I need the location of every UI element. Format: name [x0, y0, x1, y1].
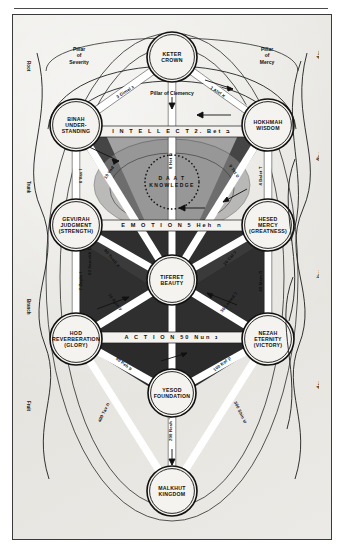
sefira-hesed[interactable]: HESEDMERCY(GREATNESS): [242, 199, 294, 251]
edge-label-fruit: Fruit: [26, 401, 31, 411]
tree-of-life-screenshot: KETERCROWNBINAHUNDER-STANDINGHOKHMAHWISD…: [0, 0, 342, 550]
sefira-label: CROWN: [161, 57, 182, 63]
top-rule: [14, 8, 328, 9]
daat-label: KNOWLEDGE: [149, 182, 195, 188]
sefira-label: TIFERET: [160, 274, 184, 280]
edge-label-yezirah: Yezirah: World of Formation: [315, 221, 331, 279]
path-label-p400: 400 Tav ת: [97, 402, 111, 423]
sefira-yesod[interactable]: YESODFOUNDATION: [148, 369, 196, 417]
path-label-p60: 60 Samekh ס: [87, 247, 92, 275]
bar-label-action: A C T I O N 50 Nun נ: [124, 334, 219, 340]
sefira-keter[interactable]: KETERCROWN: [147, 32, 197, 82]
sefira-label: REVERBERATION: [52, 336, 100, 342]
path-label-p7: 7 Zayin ז: [78, 271, 83, 290]
pillar-label-line: Severity: [69, 59, 89, 65]
sefira-label: HOD: [70, 330, 82, 336]
sefira-label: JUDGMENT: [60, 222, 92, 228]
sefira-label: ETERNITY: [254, 336, 282, 342]
sefira-label: (GLORY): [64, 342, 87, 348]
bar-label-intellect: I N T E L L E C T 2. Bet ב: [112, 128, 232, 134]
path-label-p6: 6 Vav ו: [78, 169, 83, 184]
path-label-p300: 300 Shin ש: [233, 401, 248, 425]
sefira-label: BEAUTY: [161, 280, 184, 286]
daat-label: D A A T: [158, 175, 185, 181]
pillar-label-line: Pillar of Clemency: [150, 90, 194, 96]
sefira-label: NEZAH: [258, 330, 277, 336]
sefira-binah[interactable]: BINAHUNDER-STANDING: [50, 99, 102, 151]
sefira-label: (GREATNESS): [249, 228, 287, 234]
sefira-label: WISDOM: [256, 125, 279, 131]
edge-label-trunk: Trunk: [26, 181, 31, 194]
sefira-label: GEVURAH: [62, 216, 90, 222]
sefira-tiferet[interactable]: TIFERETBEAUTY: [147, 255, 197, 305]
path-label-p4: 4 Dalet ד: [258, 166, 263, 186]
bar-label-emotion: E M O T I O N 5 Heh ה: [121, 222, 223, 228]
sefira-label: HESED: [258, 216, 277, 222]
sefira-label: KETER: [163, 51, 182, 57]
sefira-hokhmah[interactable]: HOKHMAHWISDOM: [242, 99, 294, 151]
pillar-label-line: Pillar: [73, 46, 85, 52]
pillar-label-line: of: [265, 52, 270, 58]
pillar-label-severity: PillarofSeverity: [69, 46, 89, 65]
sefira-label: (VICTORY): [254, 342, 282, 348]
edge-label-branch: Branch: [26, 299, 31, 315]
sefira-label: KINGDOM: [159, 491, 186, 497]
sefira-malkhut[interactable]: MALKHUTKINGDOM: [147, 466, 197, 516]
sefira-label: HOKHMAH: [254, 119, 283, 125]
sefira-label: YESOD: [162, 387, 181, 393]
sefira-label: (STRENGTH): [59, 228, 94, 234]
pillar-label-clemency: Pillar of Clemency: [150, 90, 194, 96]
sefira-hod[interactable]: HODREVERBERATION(GLORY): [50, 313, 102, 365]
edge-label-asiyah: Asiyah: World of Action: [315, 340, 331, 390]
sefira-label: STANDING: [62, 128, 91, 134]
path-label-p40: 40 Mem מ: [258, 270, 263, 291]
diagram-frame: KETERCROWNBINAHUNDER-STANDINGHOKHMAHWISD…: [12, 14, 332, 540]
path-label-p200: 200 Resh ר: [168, 417, 173, 441]
pillar-label-mercy: PillarofMercy: [260, 46, 275, 65]
sefira-label: MERCY: [258, 222, 278, 228]
edge-label-azilut: Azilut: Emanation: [315, 22, 331, 60]
sefira-gevurah[interactable]: GEVURAHJUDGMENT(STRENGTH): [50, 199, 102, 251]
sefira-label: BINAH: [67, 116, 85, 122]
sefira-label: FOUNDATION: [154, 393, 191, 399]
tree-of-life-svg: KETERCROWNBINAHUNDER-STANDINGHOKHMAHWISD…: [13, 15, 331, 539]
sefira-label: UNDER-: [65, 122, 87, 128]
pillar-label-line: Pillar: [261, 46, 273, 52]
pillar-label-line: of: [77, 52, 82, 58]
sefira-label: MALKHUT: [158, 485, 186, 491]
pillar-label-line: Mercy: [260, 59, 275, 65]
edge-label-root: Root: [26, 61, 31, 72]
edge-label-beriah: Beriah: World of Creation: [315, 108, 331, 161]
path-label-p8: 8 Het ח: [168, 153, 173, 169]
